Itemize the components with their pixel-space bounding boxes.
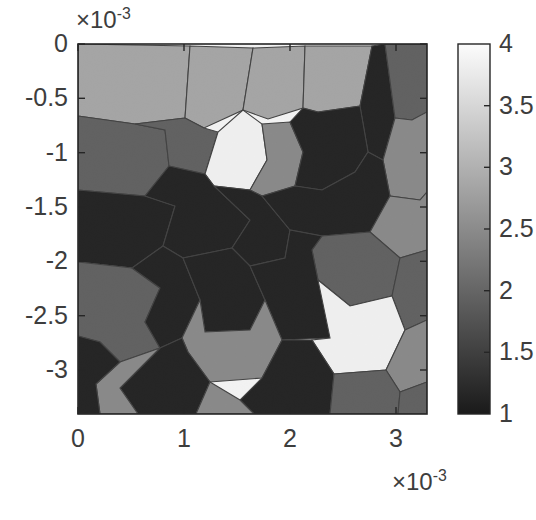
x-tick-label: 3 [356, 426, 436, 451]
y-tick-label: -1.5 [0, 194, 68, 219]
y-exponent-mantissa: ×10 [76, 6, 117, 33]
y-exponent-power: -3 [117, 5, 131, 22]
x-axis-exponent-label: ×10-3 [392, 470, 447, 494]
y-tick-label: -1 [0, 140, 68, 165]
colorbar-tick-label: 3 [499, 154, 536, 179]
grain-rect [78, 44, 427, 414]
x-exponent-mantissa: ×10 [392, 468, 433, 495]
x-tick-label: 2 [250, 426, 330, 451]
y-tick-label: 0 [0, 31, 68, 56]
colorbar-tick-label: 1.5 [499, 339, 536, 364]
x-exponent-power: -3 [433, 467, 447, 484]
y-tick-label: -2.5 [0, 303, 68, 328]
colorbar-tick-label: 2 [499, 278, 536, 303]
matlab-figure-canvas: ×10-3 ×10-3 0123 0-0.5-1-1.5-2-2.5-3 43.… [0, 0, 536, 520]
colorbar-tick-label: 1 [499, 401, 536, 426]
x-tick-label: 0 [38, 426, 118, 451]
colorbar-tick-label: 3.5 [499, 93, 536, 118]
image-grain-overlay [78, 44, 427, 414]
y-tick-label: -3 [0, 357, 68, 382]
colorbar-tick-label: 2.5 [499, 216, 536, 241]
x-tick-label: 1 [144, 426, 224, 451]
y-tick-label: -2 [0, 248, 68, 273]
y-axis-exponent-label: ×10-3 [76, 8, 131, 32]
colorbar-tick-label: 4 [499, 31, 536, 56]
y-tick-label: -0.5 [0, 85, 68, 110]
